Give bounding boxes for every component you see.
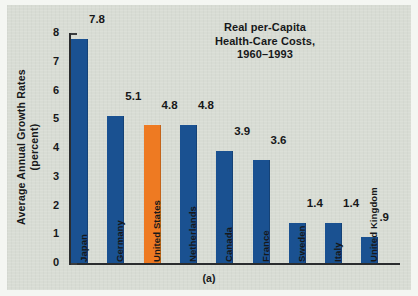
- y-tick-label: 1: [19, 227, 59, 239]
- figure-page: Average Annual Growth Rates (percent) Re…: [0, 0, 418, 296]
- bar-value-label: 5.1: [125, 90, 141, 103]
- bar-value-label: 3.6: [271, 134, 287, 147]
- bar-value-label: 3.9: [234, 125, 250, 138]
- bar-category-label: Italy: [332, 242, 343, 262]
- y-tick-label: 4: [19, 141, 59, 153]
- y-tick: [71, 263, 77, 265]
- bar-value-label: .9: [379, 211, 389, 224]
- y-tick-label: 6: [19, 84, 59, 96]
- bar-value-label: 4.8: [198, 99, 214, 112]
- bar-group[interactable]: 1.4Sweden: [289, 33, 320, 263]
- bar-group[interactable]: 3.9Canada: [216, 33, 247, 263]
- bar-value-label: 1.4: [343, 197, 359, 210]
- bar-series: 7.8Japan5.1Germany4.8United States4.8Net…: [71, 33, 400, 263]
- plot-area: 012345678 7.8Japan5.1Germany4.8United St…: [62, 27, 402, 267]
- y-tick-label: 0: [19, 256, 59, 268]
- bar-category-label: Netherlands: [187, 206, 198, 262]
- figure-caption: (a): [7, 272, 411, 284]
- bar-category-label: United States: [151, 200, 162, 262]
- x-axis-line: [69, 263, 400, 265]
- bar-group[interactable]: 7.8Japan: [71, 33, 102, 263]
- bar-value-label: 4.8: [162, 99, 178, 112]
- y-tick-label: 5: [19, 112, 59, 124]
- y-tick-label: 8: [19, 26, 59, 38]
- bar-group[interactable]: 1.4Italy: [325, 33, 356, 263]
- bar-group[interactable]: .9United Kingdom: [361, 33, 392, 263]
- bar-value-label: 7.8: [89, 13, 105, 26]
- y-tick-label: 7: [19, 55, 59, 67]
- y-tick-label: 2: [19, 199, 59, 211]
- bar-category-label: Japan: [78, 234, 89, 262]
- bar-category-label: France: [260, 230, 271, 262]
- chart-panel: Average Annual Growth Rates (percent) Re…: [7, 5, 411, 290]
- bar-category-label: Sweden: [296, 226, 307, 263]
- bar[interactable]: [71, 39, 88, 263]
- bar-category-label: Germany: [114, 220, 125, 262]
- bar-group[interactable]: 4.8United States: [144, 33, 175, 263]
- bar-category-label: United Kingdom: [368, 187, 379, 262]
- bar-value-label: 1.4: [307, 197, 323, 210]
- y-tick-label: 3: [19, 170, 59, 182]
- bar-category-label: Canada: [223, 227, 234, 262]
- bar-group[interactable]: 3.6France: [253, 33, 284, 263]
- bar-group[interactable]: 4.8Netherlands: [180, 33, 211, 263]
- bar-group[interactable]: 5.1Germany: [107, 33, 138, 263]
